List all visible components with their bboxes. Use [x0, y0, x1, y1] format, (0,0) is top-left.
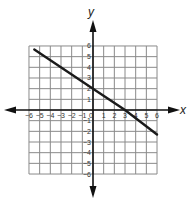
- x-axis-left-arrow-icon: [4, 107, 16, 114]
- y-tick-label: −5: [83, 160, 91, 167]
- x-tick-label: −4: [46, 112, 54, 119]
- plotted-line: [34, 50, 157, 135]
- y-tick-label: −2: [83, 128, 91, 135]
- x-axis-label: x: [179, 103, 187, 117]
- data-line: [34, 50, 157, 135]
- x-tick-label: 1: [102, 112, 106, 119]
- y-tick-label: 4: [87, 64, 91, 71]
- y-tick-label: −6: [83, 171, 91, 178]
- x-tick-label: −5: [36, 112, 44, 119]
- x-axis-right-arrow-icon: [168, 107, 180, 114]
- y-tick-label: −3: [83, 139, 91, 146]
- coordinate-plane: −6−5−4−3−2−10123456654321−1−2−3−4−5−6 x …: [0, 0, 194, 199]
- x-tick-label: 6: [155, 112, 159, 119]
- y-axis-down-arrow-icon: [90, 186, 97, 198]
- x-tick-label: −6: [25, 112, 33, 119]
- x-tick-label: 2: [112, 112, 116, 119]
- y-tick-label: 5: [87, 53, 91, 60]
- x-tick-label: 5: [144, 112, 148, 119]
- y-tick-label: 6: [87, 42, 91, 49]
- y-axis-up-arrow-icon: [90, 20, 97, 32]
- x-tick-label: −3: [57, 112, 65, 119]
- y-tick-label: −4: [83, 149, 91, 156]
- y-axis-label: y: [87, 5, 95, 19]
- x-tick-label: 3: [123, 112, 127, 119]
- axes: [4, 20, 180, 198]
- x-tick-label: −2: [68, 112, 76, 119]
- y-tick-label: 1: [87, 96, 91, 103]
- y-tick-label: 3: [87, 74, 91, 81]
- y-tick-label: −1: [83, 117, 91, 124]
